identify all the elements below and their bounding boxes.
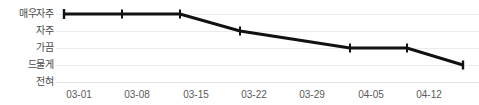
line-chart: 매우자주 자주 가끔 드물게 전혀 03-01 03-08 03-15 03-2…	[0, 0, 479, 105]
x-axis-tick-labels: 03-01 03-08 03-15 03-22 03-29 04-05 04-1…	[0, 0, 479, 105]
x-tick-label-4: 03-29	[299, 90, 325, 100]
x-tick-label-1: 03-08	[124, 90, 150, 100]
x-tick-label-0: 03-01	[66, 90, 92, 100]
x-tick-label-3: 03-22	[241, 90, 267, 100]
x-tick-label-2: 03-15	[183, 90, 209, 100]
x-tick-label-6: 04-12	[416, 90, 442, 100]
x-tick-label-5: 04-05	[358, 90, 384, 100]
